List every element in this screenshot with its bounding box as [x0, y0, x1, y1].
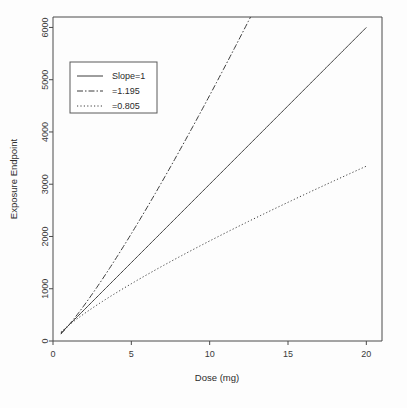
- y-tick-label: 0: [40, 338, 50, 343]
- exposure-dose-line-chart: 0100020003000400050006000 05101520 Dose …: [0, 0, 407, 408]
- y-tick-label: 4000: [40, 122, 50, 142]
- y-tick-label: 2000: [40, 226, 50, 246]
- y-axis-title: Exposure Endpoint: [8, 139, 19, 220]
- chart-figure: 0100020003000400050006000 05101520 Dose …: [0, 0, 407, 408]
- x-tick-label: 10: [205, 349, 215, 359]
- y-tick-label: 3000: [40, 174, 50, 194]
- y-tick-label: 1000: [40, 279, 50, 299]
- x-tick-label: 15: [283, 349, 293, 359]
- chart-legend: Slope=1=1.195=0.805: [70, 62, 157, 113]
- x-tick-label: 0: [50, 349, 55, 359]
- x-tick-label: 20: [361, 349, 371, 359]
- x-axis-title: Dose (mg): [195, 372, 239, 383]
- y-tick-label: 6000: [40, 17, 50, 37]
- legend-label: =1.195: [112, 86, 140, 96]
- legend-label: =0.805: [112, 101, 140, 111]
- x-tick-label: 5: [129, 349, 134, 359]
- y-tick-label: 5000: [40, 70, 50, 90]
- legend-label: Slope=1: [112, 71, 145, 81]
- chart-background: [0, 0, 407, 408]
